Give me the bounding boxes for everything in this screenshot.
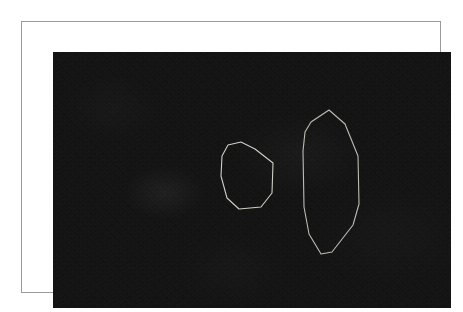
image-canvas[interactable] <box>53 52 451 308</box>
page-root <box>0 0 463 312</box>
figure-frame <box>21 21 441 293</box>
roi-polygon-large[interactable] <box>303 110 359 254</box>
figure-caption <box>0 0 1 1</box>
annotation-overlay <box>53 52 451 308</box>
roi-polygon-small[interactable] <box>221 142 273 209</box>
